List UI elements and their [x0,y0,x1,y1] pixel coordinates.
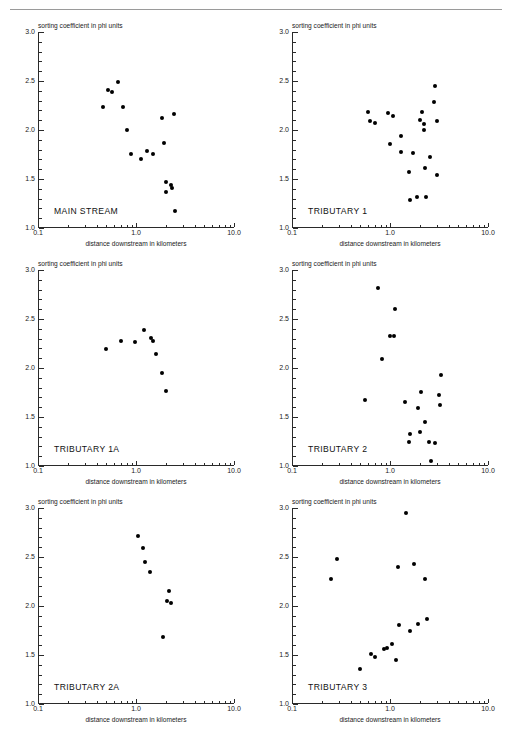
x-axis-tick-label: 10.0 [481,705,495,712]
data-point [376,286,380,290]
data-point [390,642,394,646]
y-axis-minor-tick [293,199,296,200]
data-point [164,180,168,184]
y-axis-minor-tick [39,675,42,676]
y-axis-tick-label: 1.5 [279,175,289,182]
x-axis-major-tick: 0.1 [38,461,39,465]
data-point [173,209,177,213]
x-axis-minor-tick [458,225,459,228]
x-axis-minor-tick [195,463,196,466]
x-axis-minor-tick [121,225,122,228]
y-axis-tick-label: 3.0 [25,266,35,273]
x-axis-major-tick: 1.0 [390,461,391,465]
y-axis-minor-tick [39,150,42,151]
y-axis-minor-tick [39,208,42,209]
y-axis-major-tick [293,417,298,418]
data-point [116,80,120,84]
x-axis-minor-tick [225,701,226,704]
x-axis-minor-tick [225,225,226,228]
y-axis-minor-tick [39,309,42,310]
data-point [433,84,437,88]
plot-area: 3.02.52.01.51.00.11.010.0 [292,270,488,466]
x-axis-major-tick: 10.0 [488,223,489,227]
y-axis-major-tick [39,179,44,180]
scatter-panel-grid: sorting coefficient in phi units3.02.52.… [0,18,508,733]
x-axis-major-tick: 0.1 [292,223,293,227]
x-axis-minor-tick [466,701,467,704]
data-point [335,557,339,561]
y-axis-minor-tick [293,91,296,92]
x-axis-minor-tick [420,463,421,466]
panel-title: TRIBUTARY 3 [308,682,367,692]
y-axis-major-tick [39,32,44,33]
data-point [428,155,432,159]
y-axis-minor-tick [39,537,42,538]
x-axis-minor-tick [449,463,450,466]
x-axis-tick-label: 0.1 [33,229,43,236]
x-axis-major-tick: 1.0 [390,223,391,227]
x-axis-tick-label: 1.0 [385,467,395,474]
data-point [385,646,389,650]
y-axis-minor-tick [39,407,42,408]
x-axis-label: distance downstream in kilometers [38,478,234,485]
x-axis-minor-tick [458,463,459,466]
y-axis-minor-tick [293,567,296,568]
data-point [141,546,145,550]
y-axis-minor-tick [293,159,296,160]
x-axis-minor-tick [449,225,450,228]
x-axis-tick-label: 1.0 [131,705,141,712]
x-axis-minor-tick [368,701,369,704]
x-axis-minor-tick [85,225,86,228]
y-axis-minor-tick [39,665,42,666]
y-axis-minor-tick [39,299,42,300]
x-axis-minor-tick [437,463,438,466]
x-axis-major-tick: 0.1 [38,699,39,703]
data-point [397,623,401,627]
y-axis-minor-tick [39,645,42,646]
x-axis-tick-label: 1.0 [385,705,395,712]
y-axis-minor-tick [39,42,42,43]
x-axis-major-tick: 10.0 [234,223,235,227]
y-axis-tick-label: 3.0 [279,28,289,35]
x-axis-minor-tick [484,701,485,704]
x-axis-label: distance downstream in kilometers [38,716,234,723]
x-axis-line [38,703,234,704]
x-axis-minor-tick [85,701,86,704]
x-axis-minor-tick [437,701,438,704]
x-axis-tick-label: 10.0 [227,229,241,236]
x-axis-minor-tick [322,225,323,228]
panel-title: TRIBUTARY 2A [54,682,119,692]
page-top-rule [10,9,502,10]
data-point [396,565,400,569]
data-point [388,142,392,146]
data-point [165,599,169,603]
x-axis-minor-tick [106,463,107,466]
y-axis-major-tick [293,508,298,509]
y-axis-minor-tick [293,694,296,695]
y-axis-minor-tick [293,427,296,428]
x-axis-minor-tick [339,701,340,704]
data-point [412,562,416,566]
y-axis-minor-tick [39,218,42,219]
x-axis-minor-tick [225,463,226,466]
y-axis-minor-tick [39,61,42,62]
x-axis-minor-tick [360,701,361,704]
plot-area: 3.02.52.01.51.00.11.010.0 [38,508,234,704]
x-axis-tick-label: 0.1 [287,229,297,236]
x-axis-minor-tick [183,463,184,466]
x-axis-minor-tick [479,225,480,228]
data-point [386,111,390,115]
y-axis-minor-tick [39,290,42,291]
y-axis-major-tick [39,557,44,558]
data-point [435,119,439,123]
y-axis-minor-tick [293,586,296,587]
y-axis-minor-tick [293,169,296,170]
data-point [392,334,396,338]
y-axis-tick-label: 2.5 [279,315,289,322]
y-axis-minor-tick [293,528,296,529]
data-point [427,440,431,444]
y-axis-minor-tick [39,567,42,568]
x-axis-minor-tick [420,225,421,228]
data-point [391,114,395,118]
y-axis-minor-tick [39,110,42,111]
